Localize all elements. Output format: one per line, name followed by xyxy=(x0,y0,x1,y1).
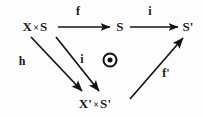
arrow-f-prime xyxy=(130,38,183,99)
edge-label-h: h xyxy=(19,54,26,69)
node-x-prime-times-s-prime: X'×S' xyxy=(79,96,112,112)
edge-label-i-diagonal: i xyxy=(80,52,83,67)
commutative-diagram: S --> S' --> X' x S' (shallower left dia… xyxy=(0,0,203,117)
arrow-i-diagonal xyxy=(56,37,99,91)
node-x-prime-operator: × xyxy=(92,99,100,110)
edge-label-f: f xyxy=(76,4,80,19)
node-x-times-s-tail: S xyxy=(40,19,47,34)
node-s-prime-base: S' xyxy=(182,19,193,34)
commutes-symbol-icon xyxy=(103,53,118,68)
edge-label-i-top: i xyxy=(148,4,151,19)
node-s-prime-tail: S' xyxy=(100,96,111,111)
edge-label-f-prime: f' xyxy=(162,66,169,81)
node-s-base: S xyxy=(116,19,123,34)
node-s: S xyxy=(116,19,123,35)
node-s-prime: S' xyxy=(182,19,193,35)
node-x-times-s-operator: × xyxy=(32,22,40,33)
arrow-h xyxy=(31,37,82,91)
node-x-times-s-base: X xyxy=(23,19,33,34)
node-x-prime-base: X' xyxy=(79,96,92,111)
node-x-times-s: X×S xyxy=(23,19,48,35)
